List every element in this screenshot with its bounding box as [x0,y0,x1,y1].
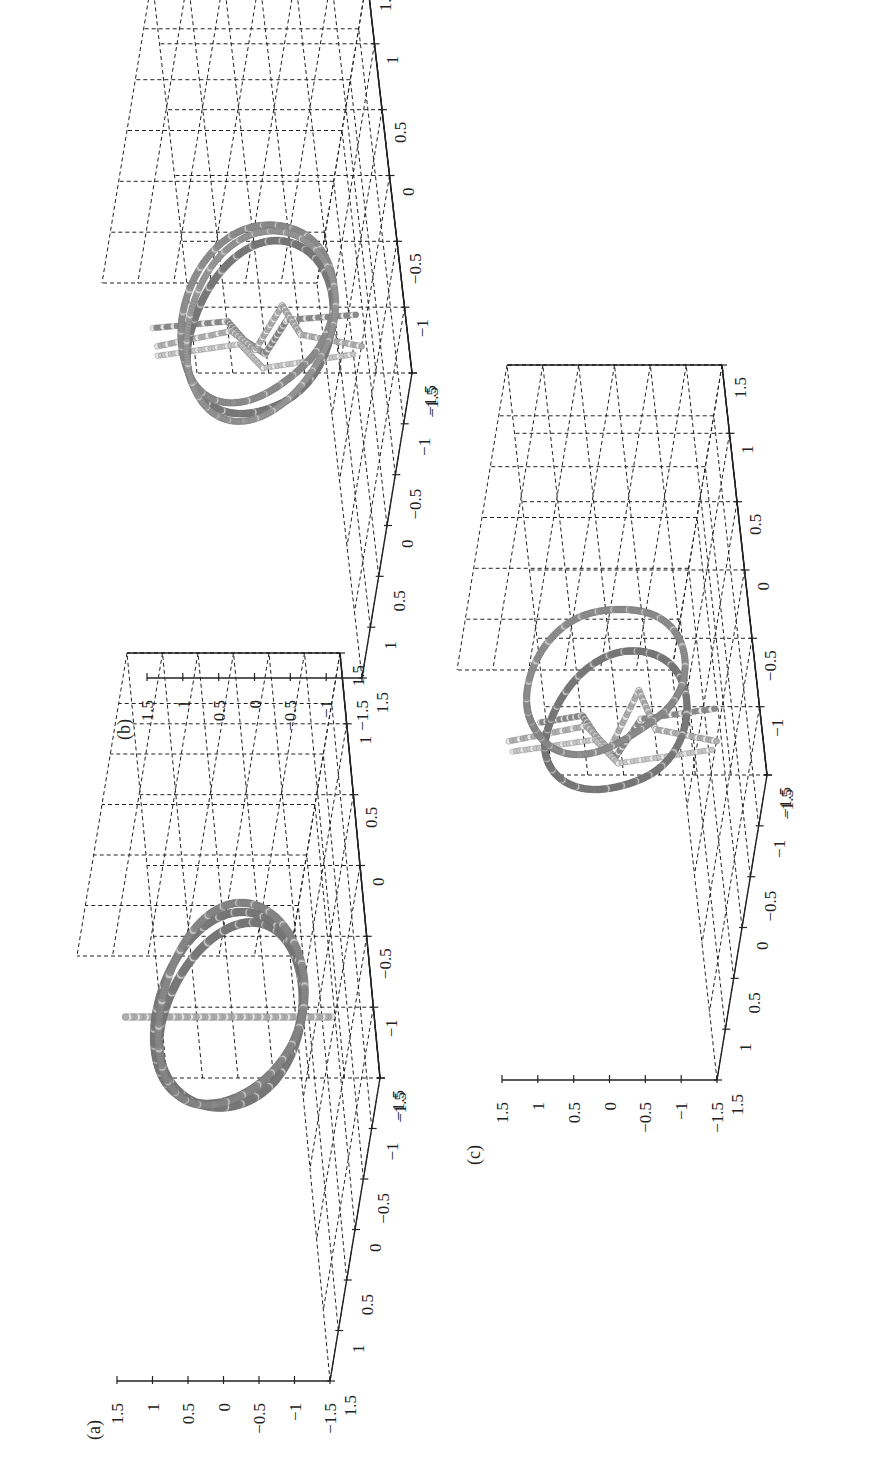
x-tick-label: 0 [753,942,772,951]
panel-label: (b) [114,719,135,740]
y-tick-label: 1.5 [349,665,368,686]
x-tick-label: 1 [381,641,400,650]
z-tick-label: 1.5 [138,700,157,721]
z-axis: 1.510.50−0.5−1−1.5 [493,1075,727,1133]
y-tick-label: −0.5 [761,650,780,681]
x-tick-label: 1.5 [341,1395,360,1416]
y-tick-label: 0 [754,582,773,591]
y-tick-label: −0.5 [406,253,425,284]
y-axis: −1.5−1−0.500.511.5 [719,365,795,818]
y-tick-label: 0.5 [362,807,381,828]
z-tick-label: −1 [286,1403,305,1421]
z-tick-label: 0.5 [565,1102,584,1123]
y-tick-label: −1 [414,319,433,337]
y-tick-label: 0.5 [746,514,765,535]
z-tick-label: 1 [174,700,193,709]
panel-a: 1.510.50−0.5−1−1.51.510.50−0.5−1−1.5−1.5… [77,653,410,1440]
figure: 1.510.50−0.5−1−1.51.510.50−0.5−1−1.5−1.5… [0,0,870,1484]
z-tick-label: −1.5 [353,700,372,731]
x-tick-label: 1.5 [373,692,392,713]
x-tick-label: −1 [415,438,434,456]
x-tick-label: 0.5 [745,992,764,1013]
y-tick-label: −1.5 [776,787,795,818]
z-tick-label: 0 [601,1102,620,1111]
panel-label: (c) [464,1145,485,1165]
x-tick-label: 0.5 [358,1294,377,1315]
y-tick-label: −1.5 [421,385,440,416]
y-tick-label: 1 [356,736,375,745]
y-tick-label: 1.5 [376,0,395,11]
x-tick-label: 0 [366,1244,385,1253]
x-tick-label: −0.5 [406,489,425,520]
y-tick-label: 0 [399,188,418,197]
y-tick-label: 0 [369,878,388,887]
y-tick-label: −1 [769,719,788,737]
z-tick-label: 1.5 [493,1102,512,1123]
y-tick-label: −1 [382,1019,401,1037]
z-tick-label: −1.5 [321,1403,340,1434]
y-tick-label: 1 [384,56,403,64]
z-tick-label: 0.5 [179,1403,198,1424]
z-tick-label: −1 [317,700,336,718]
x-tick-label: −0.5 [374,1193,393,1224]
data-points [506,606,720,793]
x-tick-label: 1 [736,1043,755,1052]
y-tick-label: −0.5 [376,948,395,979]
z-axis: 1.510.50−0.5−1−1.5 [138,673,372,731]
y-axis: −1.5−1−0.500.511.5 [364,0,440,416]
data-points [122,899,335,1112]
x-axis: 1.510.50−0.5−1−1.5 [327,1078,410,1416]
y-tick-label: 1.5 [731,377,750,398]
x-tick-label: 0 [398,540,417,549]
z-tick-label: −0.5 [281,700,300,731]
x-tick-label: −0.5 [761,891,780,922]
x-tick-label: −1 [770,840,789,858]
y-tick-label: −1.5 [389,1090,408,1121]
data-points [150,222,365,425]
panel-b: 1.510.50−0.5−1−1.51.510.50−0.5−1−1.5−1.5… [102,0,442,740]
z-tick-label: 0 [246,700,265,709]
x-tick-label: −1 [383,1143,402,1161]
z-tick-label: 0 [215,1403,234,1412]
z-tick-label: 1 [529,1102,548,1111]
z-tick-label: −0.5 [636,1102,655,1133]
x-axis: 1.510.50−0.5−1−1.5 [714,775,797,1115]
z-tick-label: −0.5 [250,1403,269,1434]
x-axis: 1.510.50−0.5−1−1.5 [359,373,442,713]
z-tick-label: 1.5 [108,1403,127,1424]
x-tick-label: 1.5 [728,1094,747,1115]
y-tick-label: 0.5 [391,122,410,143]
z-tick-label: 0.5 [210,700,229,721]
panel-label: (a) [84,1420,105,1440]
z-tick-label: 1 [144,1403,163,1412]
x-tick-label: 0.5 [390,590,409,611]
x-tick-label: 1 [349,1345,368,1354]
z-tick-label: −1.5 [708,1102,727,1133]
panel-c: 1.510.50−0.5−1−1.51.510.50−0.5−1−1.5−1.5… [457,365,797,1165]
z-axis: 1.510.50−0.5−1−1.5 [108,1376,340,1434]
y-tick-label: 1 [739,445,758,454]
z-tick-label: −1 [672,1102,691,1120]
